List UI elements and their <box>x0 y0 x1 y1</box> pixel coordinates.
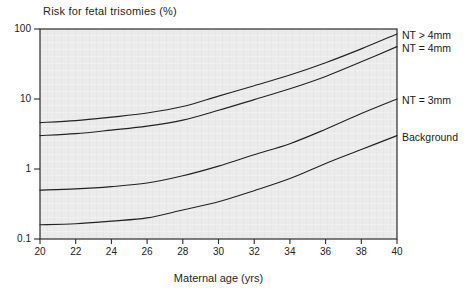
y-axis-tick-label: 0.1 <box>0 233 31 245</box>
x-axis-tick-label: 34 <box>277 246 303 258</box>
x-axis-title: Maternal age (yrs) <box>40 272 397 284</box>
risk-curve <box>40 136 397 225</box>
x-axis-tick-label: 28 <box>170 246 196 258</box>
plot-border <box>40 29 397 239</box>
x-axis-tick-label: 32 <box>241 246 267 258</box>
y-axis-tick-label: 1 <box>0 163 31 175</box>
curve-label-nt-eq-3mm: NT = 3mm <box>402 94 451 107</box>
y-axis-tick-label: 10 <box>0 93 31 105</box>
x-axis-tick-label: 24 <box>98 246 124 258</box>
curve-label-background: Background <box>402 131 458 144</box>
x-axis-tick-label: 30 <box>206 246 232 258</box>
risk-curve <box>40 47 397 136</box>
x-axis-tick-label: 36 <box>313 246 339 258</box>
risk-curve <box>40 99 397 190</box>
y-axis-tick-label: 100 <box>0 23 31 35</box>
curve-label-nt-eq-4mm: NT = 4mm <box>402 42 451 55</box>
x-axis-tick-label: 40 <box>384 246 410 258</box>
trisomy-risk-chart: Risk for fetal trisomies (%) 1001010.1 2… <box>0 0 473 299</box>
risk-curve <box>40 34 397 123</box>
curve-label-nt-gt-4mm: NT > 4mm <box>402 29 451 42</box>
x-axis-tick-label: 26 <box>134 246 160 258</box>
x-axis-tick-label: 22 <box>63 246 89 258</box>
x-axis-tick-label: 38 <box>348 246 374 258</box>
x-axis-tick-label: 20 <box>27 246 53 258</box>
